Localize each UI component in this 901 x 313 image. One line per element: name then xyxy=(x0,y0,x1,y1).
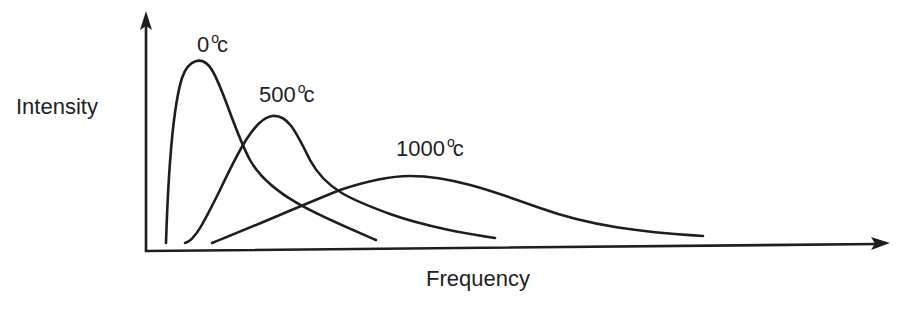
label-500c: 500oc xyxy=(259,84,315,106)
label-1000c-value: 1000 xyxy=(396,136,445,161)
label-500c-value: 500 xyxy=(259,82,296,107)
degree-icon: o xyxy=(447,134,455,150)
y-axis-label: Intensity xyxy=(16,96,98,118)
degree-icon: o xyxy=(298,80,306,96)
degree-icon: o xyxy=(211,30,219,46)
curve-1000c xyxy=(212,176,703,243)
label-0c-value: 0 xyxy=(197,32,209,57)
x-axis xyxy=(146,244,878,251)
label-1000c: 1000oc xyxy=(396,138,464,160)
x-axis-label: Frequency xyxy=(426,268,530,290)
label-0c: 0oc xyxy=(197,34,228,56)
